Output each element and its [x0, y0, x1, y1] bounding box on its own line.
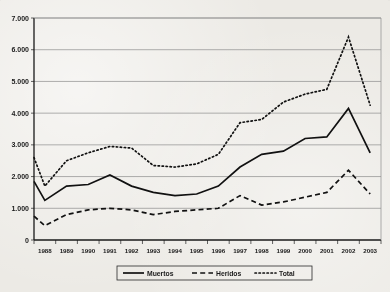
legend-label-total: Total: [279, 270, 295, 277]
x-axis-tick-label: 2001: [320, 247, 334, 254]
series-line-total: [34, 37, 370, 186]
line-chart: 01.0002.0003.0004.0005.0006.0007.000 198…: [0, 0, 390, 292]
x-axis-tick-label: 2002: [342, 247, 356, 254]
x-axis-tick-label: 1989: [60, 247, 74, 254]
y-axis-tick-label: 0: [25, 237, 29, 244]
gridlines: [34, 18, 381, 208]
data-series-group: [34, 37, 370, 226]
chart-container: 01.0002.0003.0004.0005.0006.0007.000 198…: [0, 0, 390, 292]
series-line-heridos: [34, 170, 370, 226]
x-axis-tick-label: 1994: [168, 247, 182, 254]
y-axis-tick-label: 1.000: [11, 205, 29, 212]
y-axis-tick-label: 4.000: [11, 110, 29, 117]
legend-label-muertos: Muertos: [147, 270, 174, 277]
y-axis-tick-label: 7.000: [11, 15, 29, 22]
x-axis-tick-label: 1996: [211, 247, 225, 254]
y-axis-tick-label: 3.000: [11, 141, 29, 148]
x-axis-tick-label: 1992: [125, 247, 139, 254]
x-axis-tick-label: 1999: [277, 247, 291, 254]
y-axis-tick-label: 6.000: [11, 46, 29, 53]
x-axis-tick-label: 1990: [81, 247, 95, 254]
x-axis-tick-label: 1995: [190, 247, 204, 254]
x-axis-tick-label: 1988: [38, 247, 52, 254]
x-axis-tick-label: 1991: [103, 247, 117, 254]
x-axis-tick-label: 1997: [233, 247, 247, 254]
legend-label-heridos: Heridos: [216, 270, 242, 277]
x-axis-labels: 1988198919901991199219931994199519961997…: [38, 247, 378, 254]
x-axis-tick-label: 1993: [146, 247, 160, 254]
x-axis-tick-label: 2000: [298, 247, 312, 254]
x-axis-tick-label: 1998: [255, 247, 269, 254]
y-axis-tick-label: 5.000: [11, 78, 29, 85]
axis-lines: [34, 18, 381, 240]
x-axis-tick-label: 2003: [363, 247, 377, 254]
chart-legend: MuertosHeridosTotal: [117, 266, 312, 280]
y-axis-tick-label: 2.000: [11, 173, 29, 180]
series-line-muertos: [34, 108, 370, 200]
y-axis-labels: 01.0002.0003.0004.0005.0006.0007.000: [11, 15, 29, 244]
